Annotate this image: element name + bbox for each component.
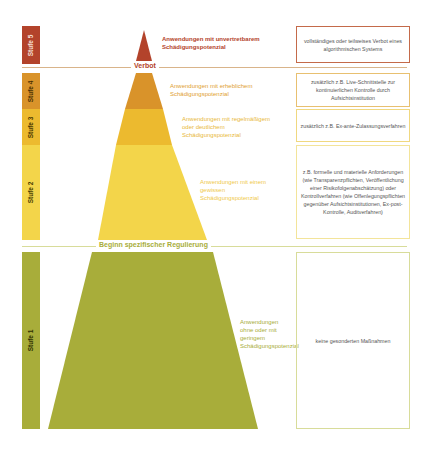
stufe-5-measure-box: vollständiges oder teilweises Verbot ein… xyxy=(296,26,410,63)
pyramid-segment-stufe-3 xyxy=(116,109,172,145)
pyramid-segment-stufe-5 xyxy=(136,30,152,61)
verbot-label: Verbot xyxy=(131,62,159,69)
stufe-2-measure-box: z.B. formelle und materielle Anforderung… xyxy=(296,145,410,239)
stufe-5-bar: Stufe 5 xyxy=(22,26,40,64)
stufe-1-label: Stufe 1 xyxy=(28,330,35,352)
regulierung-divider-line xyxy=(22,246,407,247)
stufe-4-label: Stufe 4 xyxy=(28,80,35,102)
stufe-5-description: Anwendungen mit unvertretbarem Schädigun… xyxy=(162,35,282,51)
stufe-3-bar: Stufe 3 xyxy=(22,109,40,145)
stufe-4-measure: zusätzlich z.B. Live-Schnittstelle zur k… xyxy=(300,78,406,102)
pyramid-segment-stufe-2 xyxy=(98,145,207,240)
stufe-1-measure-box: keine gesonderten Maßnahmen xyxy=(296,252,410,429)
stufe-2-measure: z.B. formelle und materielle Anforderung… xyxy=(300,168,406,216)
stufe-1-description: Anwendungen ohne oder mit geringem Schäd… xyxy=(240,318,290,350)
stufe-3-label: Stufe 3 xyxy=(28,116,35,138)
stufe-2-label: Stufe 2 xyxy=(28,182,35,204)
stufe-5-label: Stufe 5 xyxy=(28,34,35,56)
pyramid-segment-stufe-4 xyxy=(125,73,163,109)
stufe-3-measure-box: zusätzlich z.B. Ex-ante-Zulassungsverfah… xyxy=(296,109,410,142)
stufe-1-bar: Stufe 1 xyxy=(22,252,40,429)
stufe-4-measure-box: zusätzlich z.B. Live-Schnittstelle zur k… xyxy=(296,73,410,107)
stufe-4-description: Anwendungen mit erheblichem Schädigungsp… xyxy=(170,82,280,98)
stufe-5-measure: vollständiges oder teilweises Verbot ein… xyxy=(300,37,406,53)
stufe-1-measure: keine gesonderten Maßnahmen xyxy=(316,337,391,345)
stufe-3-measure: zusätzlich z.B. Ex-ante-Zulassungsverfah… xyxy=(301,122,406,130)
stufe-3-description: Anwendungen mit regelmäßigem oder deutli… xyxy=(182,115,282,139)
verbot-divider-line xyxy=(22,67,407,68)
stufe-2-bar: Stufe 2 xyxy=(22,145,40,240)
stufe-4-bar: Stufe 4 xyxy=(22,73,40,109)
pyramid-segment-stufe-1 xyxy=(48,252,258,429)
stufe-2-description: Anwendungen mit einem gewissen Schädigun… xyxy=(200,178,280,202)
regulierung-label: Beginn spezifischer Regulierung xyxy=(96,241,211,248)
